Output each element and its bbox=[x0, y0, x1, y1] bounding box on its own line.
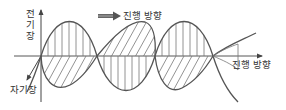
electric-field-label-char-2: 기 bbox=[25, 19, 36, 30]
electric-field-label: 전 기 장 bbox=[25, 8, 36, 41]
magnetic-field-label: 자기장 bbox=[10, 85, 37, 95]
propagation-direction-axis-label: 진행 방향 bbox=[232, 60, 271, 70]
propagation-arrow-icon bbox=[98, 12, 121, 21]
propagation-direction-top-label: 진행 방향 bbox=[123, 11, 162, 21]
electric-field-wave bbox=[41, 22, 238, 103]
electric-field-label-char-1: 전 bbox=[25, 8, 36, 19]
electric-field-vectors-3 bbox=[162, 10, 204, 56]
electric-field-vectors-1 bbox=[48, 10, 90, 56]
electric-field-label-char-3: 장 bbox=[25, 30, 36, 41]
electric-field-vectors-2 bbox=[104, 56, 146, 102]
